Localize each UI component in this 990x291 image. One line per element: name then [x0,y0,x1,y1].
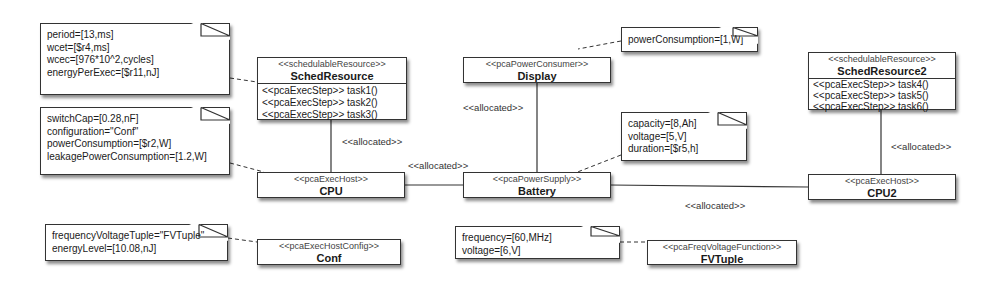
stereotype-label: <<pcaFreqVoltageFunction>> [648,241,796,253]
class-name: Battery [464,185,610,198]
association-label-battery-cpu2: <<allocated>> [685,200,745,211]
association-label-sched-cpu: <<allocated>> [342,136,402,147]
stereotype-label: <<pcaExecHost>> [809,175,955,187]
operation: <<pcaExecStep>> task4() [813,79,951,90]
operation: <<pcaExecStep>> task1() [262,85,402,97]
class-name: CPU [258,185,404,198]
class-name: Display [464,70,610,83]
note-display-properties: powerConsumption=[1,W] [621,27,758,52]
stereotype-label: <<schedulableResource>> [809,53,955,65]
class-name: FVTuple [648,253,796,266]
note-conf-properties: frequencyVoltageTuple="FVTuple" energyLe… [45,224,228,261]
note-line: wcec=[976*10^2,cycles] [47,54,223,67]
note-line: duration=[$r5,h] [628,143,740,156]
class-name: SchedResource2 [809,65,955,78]
stereotype-label: <<pcaExecHostConfig>> [258,240,400,252]
note-line: voltage=[6,V] [462,245,613,258]
note-line: powerConsumption=[$r2,W] [47,138,223,151]
class-display[interactable]: <<pcaPowerConsumer>> Display [463,57,611,83]
stereotype-label: <<pcaPowerConsumer>> [464,58,610,70]
class-conf[interactable]: <<pcaExecHostConfig>> Conf [257,239,401,265]
class-name: CPU2 [809,187,955,200]
note-battery-properties: capacity=[8,Ah] voltage=[5,V] duration=[… [621,112,747,161]
class-sched-resource2[interactable]: <<schedulableResource>> SchedResource2 <… [808,52,956,110]
note-cpu-properties: switchCap=[0.28,nF] configuration="Conf"… [40,107,230,175]
association-label-sched2-cpu2: <<allocated>> [891,141,951,152]
class-cpu2[interactable]: <<pcaExecHost>> CPU2 [808,174,956,200]
operation: <<pcaExecStep>> task2() [262,97,402,109]
note-line: voltage=[5,V] [628,131,740,144]
note-line: energyLevel=[10.08,nJ] [52,243,221,256]
class-name: Conf [258,252,400,265]
stereotype-label: <<pcaExecHost>> [258,173,404,185]
operation: <<pcaExecStep>> task3() [262,109,402,121]
class-battery[interactable]: <<pcaPowerSupply>> Battery [463,172,611,198]
note-line: energyPerExec=[$r11,nJ] [47,67,223,80]
note-line: wcet=[$r4,ms] [47,42,223,55]
class-cpu[interactable]: <<pcaExecHost>> CPU [257,172,405,198]
stereotype-label: <<schedulableResource>> [258,58,406,70]
operation: <<pcaExecStep>> task6() [813,101,951,112]
association-label-display-battery: <<allocated>> [463,102,523,113]
stereotype-label: <<pcaPowerSupply>> [464,173,610,185]
operations-compartment: <<pcaExecStep>> task1() <<pcaExecStep>> … [258,83,406,122]
note-line: leakagePowerConsumption=[1.2,W] [47,151,223,164]
note-line: configuration="Conf" [47,126,223,139]
operations-compartment: <<pcaExecStep>> task4() <<pcaExecStep>> … [809,78,955,113]
class-name: SchedResource [258,70,406,83]
note-fvtuple-properties: frequency=[60,MHz] voltage=[6,V] [455,226,620,259]
class-sched-resource[interactable]: <<schedulableResource>> SchedResource <<… [257,57,407,120]
operation: <<pcaExecStep>> task5() [813,90,951,101]
note-sched-properties: period=[13,ms] wcet=[$r4,ms] wcec=[976*1… [40,23,230,95]
association-label-cpu-battery: <<allocated>> [408,160,468,171]
class-fvtuple[interactable]: <<pcaFreqVoltageFunction>> FVTuple [647,240,797,265]
